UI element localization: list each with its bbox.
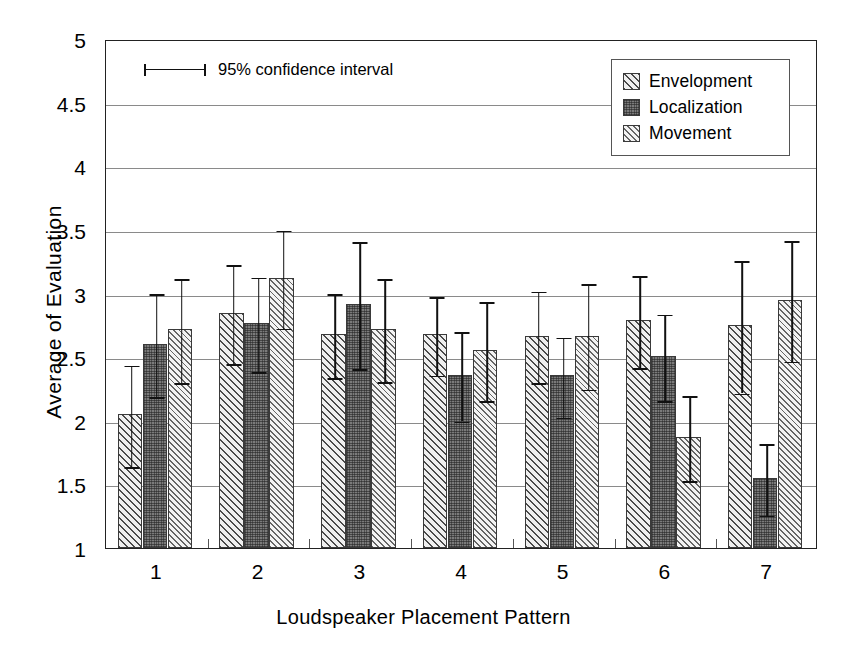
error-bar-localization-5 bbox=[563, 338, 565, 418]
legend-item-movement: Movement bbox=[623, 120, 780, 146]
error-bar-movement-1 bbox=[181, 279, 183, 383]
error-cap-upper bbox=[683, 396, 698, 398]
x-tick-label: 5 bbox=[557, 560, 569, 584]
error-cap-lower bbox=[531, 383, 546, 385]
bar-movement-5 bbox=[575, 336, 600, 549]
gridline bbox=[106, 296, 816, 297]
error-cap-upper bbox=[455, 332, 470, 334]
gridline bbox=[106, 232, 816, 233]
error-cap-lower bbox=[760, 516, 775, 518]
y-tick-label: 3.5 bbox=[24, 220, 86, 241]
error-cap-upper bbox=[174, 279, 189, 281]
error-bar-envelopment-4 bbox=[436, 297, 438, 376]
error-cap-upper bbox=[735, 261, 750, 263]
y-tick-label: 1.5 bbox=[24, 475, 86, 496]
y-tick-label: 4 bbox=[24, 157, 86, 178]
error-cap-lower bbox=[353, 369, 368, 371]
x-tick-label: 1 bbox=[150, 560, 162, 584]
bar-localization-1 bbox=[143, 344, 168, 548]
plot-area: 95% confidence interval Envelopment Loca… bbox=[105, 40, 817, 549]
legend-swatch-movement-icon bbox=[623, 125, 640, 142]
error-bar-movement-2 bbox=[283, 231, 285, 329]
error-cap-lower bbox=[328, 378, 343, 380]
x-tick-label: 4 bbox=[455, 560, 467, 584]
x-axis-tick-labels: 1234567 bbox=[105, 560, 817, 594]
error-cap-lower bbox=[174, 383, 189, 385]
legend-swatch-envelopment-icon bbox=[623, 73, 640, 90]
confidence-interval-annotation: 95% confidence interval bbox=[144, 60, 393, 79]
error-cap-upper bbox=[276, 231, 291, 233]
error-bar-movement-7 bbox=[791, 241, 793, 362]
error-cap-lower bbox=[480, 401, 495, 403]
bar-envelopment-2 bbox=[219, 313, 244, 548]
error-bar-localization-7 bbox=[766, 444, 768, 515]
error-cap-lower bbox=[251, 372, 266, 374]
error-cap-upper bbox=[760, 444, 775, 446]
error-bar-localization-3 bbox=[360, 242, 362, 369]
bar-envelopment-7 bbox=[728, 325, 753, 548]
x-tick-label: 7 bbox=[760, 560, 772, 584]
ci-line bbox=[144, 69, 206, 71]
error-cap-upper bbox=[633, 276, 648, 278]
error-cap-lower bbox=[378, 382, 393, 384]
error-bar-localization-4 bbox=[461, 332, 463, 421]
error-cap-lower bbox=[124, 467, 139, 469]
ci-label: 95% confidence interval bbox=[218, 60, 393, 79]
x-tick-mark bbox=[716, 539, 717, 548]
bar-movement-6 bbox=[676, 437, 701, 548]
bar-movement-7 bbox=[778, 300, 803, 548]
error-cap-lower bbox=[581, 390, 596, 392]
error-cap-upper bbox=[785, 241, 800, 243]
bar-envelopment-4 bbox=[423, 334, 448, 548]
error-cap-upper bbox=[328, 294, 343, 296]
bar-envelopment-6 bbox=[626, 320, 651, 548]
legend-item-envelopment: Envelopment bbox=[623, 68, 780, 94]
error-bar-envelopment-2 bbox=[233, 265, 235, 364]
error-bar-envelopment-3 bbox=[335, 294, 337, 378]
legend: Envelopment Localization Movement bbox=[611, 59, 790, 156]
x-tick-mark bbox=[615, 539, 616, 548]
error-cap-upper bbox=[556, 338, 571, 340]
x-tick-label: 3 bbox=[353, 560, 365, 584]
bar-movement-3 bbox=[371, 329, 396, 548]
legend-label-movement: Movement bbox=[649, 123, 732, 144]
error-bar-envelopment-6 bbox=[640, 276, 642, 368]
error-cap-lower bbox=[276, 329, 291, 331]
bar-localization-6 bbox=[651, 356, 676, 548]
bar-movement-1 bbox=[168, 329, 193, 548]
bar-movement-2 bbox=[269, 278, 294, 548]
x-axis-title: Loudspeaker Placement Pattern bbox=[0, 606, 847, 629]
error-bar-envelopment-5 bbox=[538, 292, 540, 384]
bar-localization-4 bbox=[448, 375, 473, 548]
y-tick-label: 5 bbox=[24, 30, 86, 51]
gridline bbox=[106, 168, 816, 169]
bar-movement-4 bbox=[473, 350, 498, 549]
legend-label-localization: Localization bbox=[649, 97, 743, 118]
y-axis-tick-labels: 11.522.533.544.55 bbox=[24, 0, 86, 671]
y-tick-label: 2 bbox=[24, 411, 86, 432]
error-cap-upper bbox=[658, 315, 673, 317]
x-tick-mark bbox=[411, 539, 412, 548]
legend-item-localization: Localization bbox=[623, 94, 780, 120]
error-cap-upper bbox=[226, 265, 241, 267]
error-cap-lower bbox=[556, 418, 571, 420]
error-bar-movement-4 bbox=[486, 302, 488, 401]
chart-figure: Average of Evaluation Loudspeaker Placem… bbox=[0, 0, 847, 671]
y-tick-label: 3 bbox=[24, 284, 86, 305]
bar-envelopment-1 bbox=[118, 414, 143, 548]
error-bar-envelopment-1 bbox=[131, 366, 133, 468]
x-tick-label: 2 bbox=[252, 560, 264, 584]
error-bar-movement-3 bbox=[385, 279, 387, 382]
error-cap-lower bbox=[226, 364, 241, 366]
x-tick-mark bbox=[513, 539, 514, 548]
error-cap-lower bbox=[149, 397, 164, 399]
y-tick-label: 4.5 bbox=[24, 93, 86, 114]
bar-localization-5 bbox=[550, 375, 575, 548]
y-tick-label: 1 bbox=[24, 539, 86, 560]
error-cap-lower bbox=[785, 362, 800, 364]
error-bar-localization-2 bbox=[258, 278, 260, 372]
error-cap-lower bbox=[658, 401, 673, 403]
y-tick-label: 2.5 bbox=[24, 348, 86, 369]
error-cap-lower bbox=[633, 368, 648, 370]
error-cap-lower bbox=[430, 376, 445, 378]
